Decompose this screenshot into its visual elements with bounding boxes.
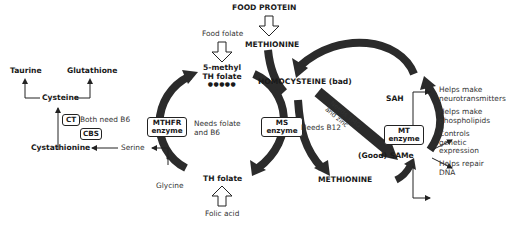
output-neurotransmitters: Helps make neurotransmitters	[439, 86, 506, 103]
label-methionine-top: METHIONINE	[245, 41, 299, 50]
hollow-arrow-food-protein	[259, 16, 279, 36]
ms-enzyme-box: MS enzyme	[261, 117, 303, 137]
dots-icon: ●●●●●	[200, 81, 244, 88]
output-genetic-expression: Controls genetic expression	[439, 130, 479, 156]
label-th-folate: TH folate	[203, 175, 242, 184]
label-same: (Good) SAMe	[358, 152, 414, 161]
label-cystathionine: Cystathionine	[31, 144, 90, 153]
mthfr-enzyme-box: MTHFR enzyme	[147, 117, 187, 137]
hollow-arrow-folic-acid	[212, 186, 232, 206]
label-food-protein: FOOD PROTEIN	[232, 4, 296, 13]
label-glycine: Glycine	[156, 182, 184, 191]
label-homocysteine: HOMOCYSTEINE (bad)	[258, 78, 352, 87]
label-cysteine: Cysteine	[42, 94, 79, 103]
hollow-arrow-food-folate	[212, 42, 232, 62]
mt-enzyme-box: MT enzyme	[384, 125, 424, 145]
label-taurine: Taurine	[10, 67, 42, 76]
label-glutathione: Glutathione	[67, 67, 117, 76]
ct-enzyme-box: CT	[62, 114, 80, 126]
label-both-need-b6: Both need B6	[80, 116, 130, 125]
label-serine: Serine	[121, 144, 145, 153]
label-methionine-bottom: METHIONINE	[318, 176, 372, 185]
label-needs-folate-b6: Needs folate and B6	[194, 120, 241, 137]
cbs-enzyme-box: CBS	[80, 128, 102, 140]
label-5-methyl-th-folate: 5-methyl TH folate ●●●●●	[200, 64, 244, 88]
output-phospholipids: Helps make phospholipids	[439, 108, 490, 125]
label-folic-acid: Folic acid	[205, 210, 239, 219]
label-sah: SAH	[386, 95, 404, 104]
label-food-folate: Food folate	[202, 30, 243, 39]
label-needs-b12: Needs B12	[301, 124, 341, 133]
output-dna-repair: Helps repair DNA	[439, 160, 484, 177]
